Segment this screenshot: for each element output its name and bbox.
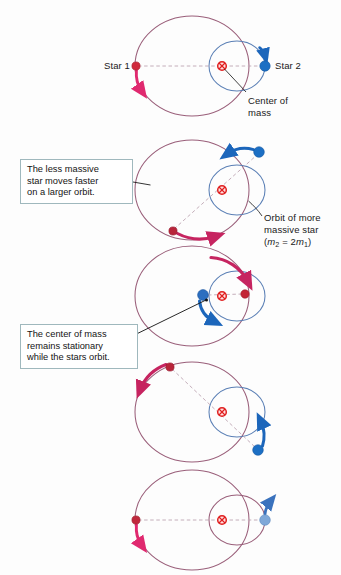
panel-3 xyxy=(118,246,265,346)
star2-label: Star 2 xyxy=(275,60,301,72)
panel-2 xyxy=(133,140,265,240)
orbit-note-line1: Orbit of more xyxy=(264,212,321,224)
center-of-mass-label-line2: mass xyxy=(248,107,271,119)
star1-large-orbit xyxy=(135,140,249,240)
star1-motion-arrow-icon xyxy=(141,365,167,390)
callout-2-line2: remains stationary xyxy=(27,341,132,353)
center-of-mass-leader-line xyxy=(225,69,247,92)
center-of-mass-icon xyxy=(218,408,227,417)
star1-dot-icon xyxy=(132,516,140,524)
star2-dot-icon xyxy=(253,445,264,456)
panel-4-axis-line xyxy=(172,369,256,448)
star2-motion-arrow-icon xyxy=(265,501,270,514)
callout-2-line3: while the stars orbit. xyxy=(27,352,132,364)
panel-2-axis-line xyxy=(174,154,258,229)
star1-dot-icon xyxy=(241,290,249,298)
star1-dot-icon xyxy=(169,227,177,235)
star2-dot-icon xyxy=(260,61,270,71)
callout-1-line3: on a larger orbit. xyxy=(27,187,127,199)
star1-motion-arrow-icon xyxy=(136,525,141,546)
star1-label: Star 1 xyxy=(104,60,130,72)
center-of-mass-icon xyxy=(218,516,227,525)
binary-star-orbit-diagram xyxy=(0,0,341,575)
callout-2-line1: The center of mass xyxy=(27,329,132,341)
star2-dot-icon xyxy=(254,147,265,158)
panel-5 xyxy=(132,470,270,570)
star2-dot-icon xyxy=(260,515,271,526)
panel-4 xyxy=(135,362,265,462)
callout-1-line1: The less massive xyxy=(27,164,127,176)
center-of-mass-label-line1: Center of xyxy=(248,95,288,107)
star1-dot-icon xyxy=(132,62,140,70)
star1-large-orbit xyxy=(135,246,249,346)
formula-m1: m xyxy=(296,236,304,247)
callout-1-line2: star moves faster xyxy=(27,176,127,188)
callout-center-stationary: The center of mass remains stationary wh… xyxy=(20,324,138,369)
center-of-mass-icon xyxy=(218,292,227,301)
formula-equals: = 2 xyxy=(279,236,296,247)
star1-motion-arrow-icon xyxy=(211,258,248,282)
formula-paren-close: ) xyxy=(308,236,311,247)
star2-motion-arrow-icon xyxy=(200,301,215,322)
star1-motion-arrow-icon xyxy=(136,70,141,91)
center-of-mass-icon xyxy=(218,186,227,195)
star1-large-orbit xyxy=(135,362,249,462)
orbit-note-line2: massive star xyxy=(264,224,319,236)
star2-motion-arrow-icon xyxy=(228,148,254,153)
star1-motion-arrow-icon xyxy=(178,234,216,239)
orbit-note-formula: (m2 = 2m1) xyxy=(264,236,311,250)
callout-less-massive: The less massive star moves faster on a … xyxy=(20,159,133,204)
star1-dot-icon xyxy=(166,363,174,371)
star2-motion-arrow-icon xyxy=(261,422,264,447)
